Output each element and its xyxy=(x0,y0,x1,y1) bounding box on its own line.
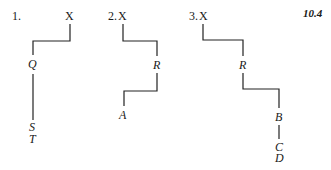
connector-line xyxy=(243,73,279,108)
connector-line xyxy=(33,24,70,55)
node-b: B xyxy=(275,110,283,124)
diagram-2: 2. X R A xyxy=(108,9,161,122)
node-a: A xyxy=(118,108,127,122)
node-q: Q xyxy=(28,57,37,71)
connector-line xyxy=(203,24,243,56)
tree-diagrams: 10.4 1. X Q S T 2. X R A 3. X R B C D xyxy=(0,0,331,170)
diagram-number: 2. xyxy=(108,9,117,23)
root-node: X xyxy=(118,9,127,23)
root-node: X xyxy=(65,9,74,23)
diagram-3: 3. X R B C D xyxy=(189,9,284,165)
root-node: X xyxy=(199,9,208,23)
diagram-1: 1. X Q S T xyxy=(12,9,74,146)
diagram-number: 3. xyxy=(189,9,198,23)
diagram-number: 1. xyxy=(12,9,21,23)
figure-label: 10.4 xyxy=(303,7,323,19)
node-d: D xyxy=(274,151,284,165)
node-t: T xyxy=(29,132,37,146)
node-r: R xyxy=(152,58,161,72)
connector-line xyxy=(124,73,157,106)
connector-line xyxy=(123,24,157,56)
node-r: R xyxy=(238,58,247,72)
